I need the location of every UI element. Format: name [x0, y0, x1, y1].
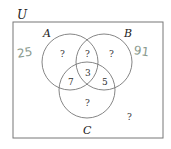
region-a-c-only: 7 [68, 77, 74, 87]
region-b-c-only: 5 [102, 77, 108, 87]
set-c-label: C [83, 124, 92, 137]
region-c-only: ? [85, 98, 90, 108]
region-outside: ? [127, 112, 132, 122]
handwritten-note-right: 91 [133, 43, 150, 59]
set-a-label: A [42, 27, 51, 40]
region-a-b-only: ? [85, 49, 90, 59]
region-a-b-c: 3 [85, 68, 91, 78]
region-a-only: ? [60, 49, 65, 59]
universe-label: U [17, 8, 28, 22]
venn-diagram: U A B C ? ? ? 3 7 5 ? ? 25 91 [0, 0, 171, 149]
region-b-only: ? [109, 49, 114, 59]
handwritten-note-left: 25 [16, 45, 33, 61]
set-b-label: B [123, 27, 132, 40]
